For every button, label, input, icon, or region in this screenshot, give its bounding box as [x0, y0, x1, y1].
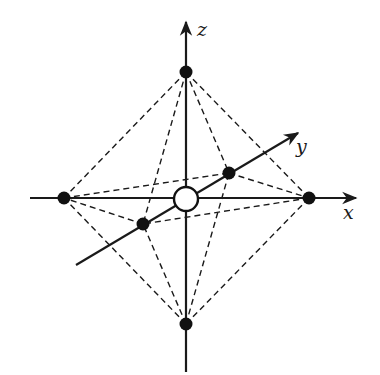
node-front [137, 218, 150, 231]
node-right [303, 192, 316, 205]
octahedron-diagram: z y x [0, 0, 380, 375]
node-back [223, 167, 236, 180]
node-left [58, 192, 71, 205]
center-atom [174, 187, 198, 211]
y-axis-label: y [295, 135, 307, 157]
z-axis-label: z [196, 18, 208, 40]
node-top [180, 66, 193, 79]
node-bottom [180, 318, 193, 331]
x-axis-label: x [343, 201, 354, 223]
